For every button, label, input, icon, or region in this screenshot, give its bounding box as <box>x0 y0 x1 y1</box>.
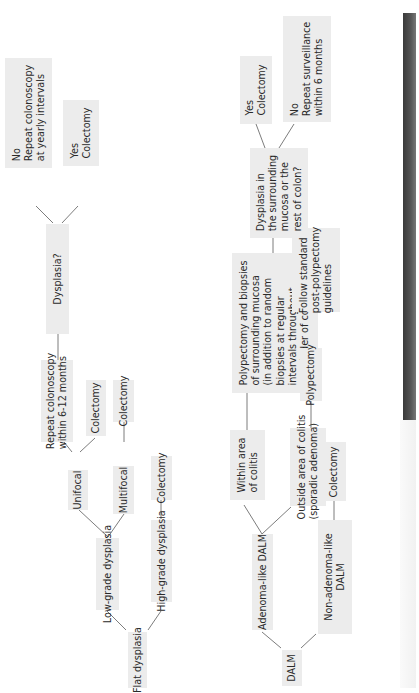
node-within-colitis: Within area of colitis <box>230 430 265 500</box>
node-label: Outside area of colitis (sporadic adenom… <box>296 415 320 520</box>
node-multifocal-colectomy: Colectomy <box>113 380 134 422</box>
node-label: Low-grade dysplasia <box>101 525 113 623</box>
node-dalm-answer-no-surveillance: No Repeat surveillance within 6 months <box>283 16 331 122</box>
node-answer-no-yearly: No Repeat colonoscopy at yearly interval… <box>5 58 52 168</box>
node-adenoma-like-dalm: Adenoma-like DALM <box>252 534 273 630</box>
node-follow-post-polypectomy-guidelines: Follow standard post-polypectomy guideli… <box>292 228 340 312</box>
node-multifocal: Multifocal <box>113 466 134 514</box>
page-edge-bar <box>403 13 416 421</box>
node-label: Within area of colitis <box>235 438 259 493</box>
node-label: Unifocal <box>72 471 84 510</box>
node-label: Dysplasia? <box>51 253 63 304</box>
node-high-grade-colectomy: Colectomy <box>151 456 172 500</box>
node-flat-dysplasia: Flat dysplasia <box>128 632 147 688</box>
node-repeat-colonoscopy-6-12: Repeat colonoscopy within 6-12 months <box>41 360 73 442</box>
node-dysplasia-question: Dysplasia? <box>46 224 69 334</box>
node-dalm-dysplasia-question: Dysplasia in the surrounding mucosa or t… <box>250 148 308 238</box>
node-label: No Repeat surveillance within 6 months <box>289 22 326 117</box>
node-label: Follow standard post-polypectomy guideli… <box>298 227 335 313</box>
node-dalm-answer-yes-colectomy: Yes Colectomy <box>240 56 272 124</box>
node-high-grade-dysplasia: High-grade dysplasia <box>151 520 172 602</box>
node-label: DALM <box>286 654 298 681</box>
node-label: Polypectomy <box>305 344 317 406</box>
node-label: Dysplasia in the surrounding mucosa or t… <box>255 155 304 231</box>
node-label: Repeat colonoscopy within 6-12 months <box>45 353 69 449</box>
node-label: Yes Colectomy <box>69 107 93 158</box>
node-label: Colectomy <box>90 382 102 433</box>
node-unifocal-colectomy: Colectomy <box>86 380 106 436</box>
node-non-adenoma-like-dalm: Non-adenoma-like DALM <box>318 520 352 634</box>
node-polypectomy: Polypectomy <box>300 348 322 401</box>
node-label: No Repeat colonoscopy at yearly interval… <box>10 65 47 161</box>
node-label: Yes Colectomy <box>244 64 268 115</box>
node-label: Multifocal <box>117 467 129 514</box>
node-label: Colectomy <box>117 375 129 426</box>
node-label: Colectomy <box>328 446 340 497</box>
node-label: High-grade dysplasia <box>155 510 167 611</box>
node-label: Adenoma-like DALM <box>256 534 268 630</box>
node-dalm: DALM <box>282 650 302 686</box>
node-label: Flat dysplasia <box>131 627 143 693</box>
page-edge-shadow <box>400 420 416 688</box>
node-answer-yes-colectomy: Yes Colectomy <box>63 100 99 166</box>
node-label: Colectomy <box>155 452 167 503</box>
node-outside-colitis: Outside area of colitis (sporadic adenom… <box>290 428 326 506</box>
node-label: Non-adenoma-like DALM <box>323 533 347 621</box>
node-unifocal: Unifocal <box>68 470 88 510</box>
node-low-grade-dysplasia: Low-grade dysplasia <box>96 538 119 610</box>
